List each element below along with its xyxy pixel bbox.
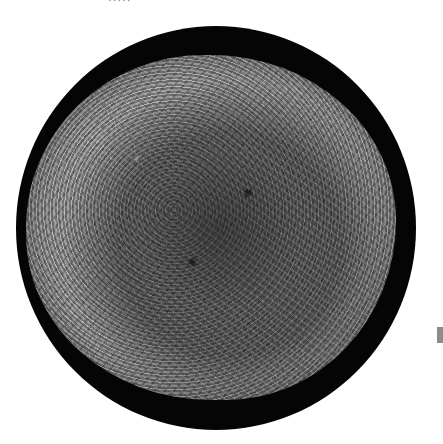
cell-body bbox=[26, 55, 396, 400]
edge-marker bbox=[437, 327, 443, 343]
caption-fragment: ····· bbox=[108, 0, 131, 6]
cell-center-region bbox=[137, 152, 304, 307]
